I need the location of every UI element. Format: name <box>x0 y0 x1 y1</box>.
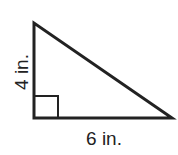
right-angle-marker <box>34 96 58 118</box>
right-triangle <box>34 23 172 118</box>
height-label: 4 in. <box>11 54 32 90</box>
triangle-diagram: 4 in. 6 in. <box>0 0 178 155</box>
base-label: 6 in. <box>86 128 122 149</box>
